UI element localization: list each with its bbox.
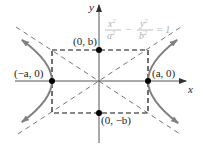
label-vertex-left: (−a, 0) bbox=[14, 67, 44, 80]
hyperbola-diagram: (−a, 0) (a, 0) (0, b) (0, −b) x y x2 a2 … bbox=[0, 0, 202, 148]
point-vertex-left bbox=[49, 78, 55, 84]
point-co-vertex-top bbox=[96, 47, 102, 53]
label-vertex-right: (a, 0) bbox=[152, 67, 176, 80]
eq-equals-one: = 1 bbox=[156, 24, 170, 35]
left-branch-arrow-down-icon bbox=[22, 119, 26, 122]
label-co-vertex-top: (0, b) bbox=[73, 35, 97, 48]
svg-text:x2: x2 bbox=[107, 18, 115, 29]
eq-den2-exp: 2 bbox=[144, 30, 147, 36]
svg-text:b2: b2 bbox=[139, 30, 147, 41]
eq-minus: − bbox=[125, 24, 132, 35]
x-axis-label: x bbox=[187, 83, 193, 95]
eq-num1-exp: 2 bbox=[112, 18, 115, 24]
svg-text:y2: y2 bbox=[139, 18, 147, 29]
right-branch-arrow-up-icon bbox=[173, 40, 177, 43]
right-branch-arrow-down-icon bbox=[174, 120, 178, 123]
eq-num2-exp: 2 bbox=[144, 18, 147, 24]
point-vertex-right bbox=[145, 78, 151, 84]
left-branch-arrow-up-icon bbox=[22, 40, 26, 43]
svg-text:a2: a2 bbox=[107, 30, 115, 41]
y-axis-label: y bbox=[88, 1, 94, 13]
eq-den1-exp: 2 bbox=[112, 30, 115, 36]
label-co-vertex-bottom: (0, −b) bbox=[101, 114, 131, 127]
hyperbola-equation: x2 a2 − y2 b2 = 1 bbox=[105, 18, 170, 41]
